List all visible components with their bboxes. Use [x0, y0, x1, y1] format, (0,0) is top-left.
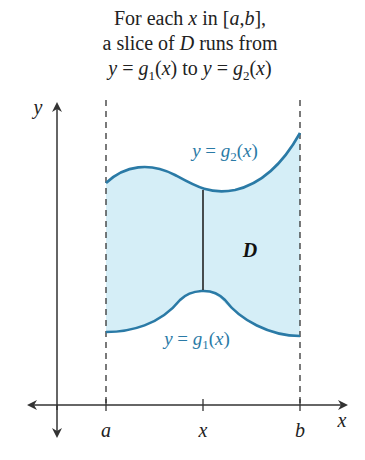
- region-diagram: a x b x y D y = g2(x) y = g1(x): [0, 0, 365, 460]
- lower-curve-label: y = g1(x): [162, 328, 230, 352]
- tick-label-b: b: [295, 419, 305, 441]
- y-axis-label: y: [32, 96, 43, 119]
- upper-curve-label: y = g2(x): [190, 140, 258, 164]
- tick-label-x: x: [198, 419, 208, 441]
- x-axis-label: x: [337, 409, 347, 431]
- tick-label-a: a: [101, 419, 111, 441]
- region-label-d: D: [242, 239, 257, 261]
